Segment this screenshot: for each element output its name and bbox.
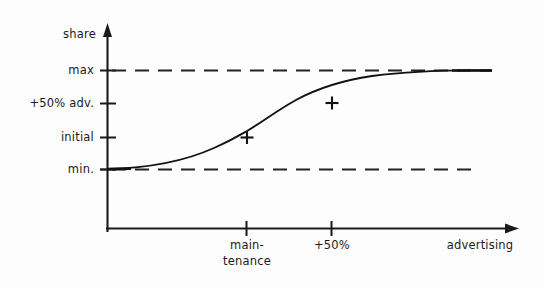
x-axis [106, 224, 519, 234]
x-axis-arrowhead [505, 224, 519, 234]
advertising-response-chart: share max +50% adv. initial min. main- t… [0, 0, 544, 288]
share-response-curve [108, 70, 490, 169]
y-tick-label-plus50-adv: +50% adv. [6, 97, 94, 110]
x-tick-label-maintenance-line2: tenance [206, 255, 288, 268]
x-tick-label-plus50: +50% [292, 239, 372, 252]
y-tick-label-min: min. [20, 163, 94, 176]
y-tick-label-initial: initial [20, 131, 94, 144]
y-axis [103, 23, 112, 232]
x-tick-label-maintenance-line1: main- [206, 239, 288, 252]
x-axis-title: advertising [434, 239, 526, 252]
y-axis-title: share [20, 28, 96, 41]
marker-plus50 [326, 97, 339, 110]
y-axis-arrowhead [103, 23, 112, 37]
y-tick-label-max: max [20, 64, 94, 77]
